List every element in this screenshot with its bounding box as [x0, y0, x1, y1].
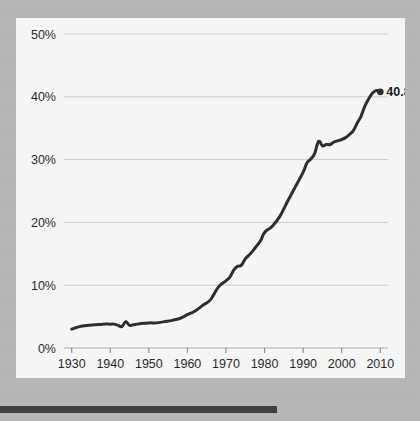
y-tick-label: 30%	[31, 153, 56, 167]
x-tick-label: 1950	[135, 357, 163, 371]
x-tick-label: 1940	[96, 357, 124, 371]
x-tick-label: 2000	[328, 357, 356, 371]
gridlines	[64, 34, 388, 285]
x-axis	[64, 348, 388, 353]
y-tick-label: 20%	[31, 216, 56, 230]
endpoint-value-label: 40.8%	[386, 85, 405, 99]
x-axis-tick-labels: 193019401950196019701980199020002010	[58, 357, 394, 371]
x-tick-label: 1980	[251, 357, 279, 371]
chart-card: 0%10%20%30%40%50% 1930194019501960197019…	[16, 18, 405, 378]
series-line-percent	[72, 90, 381, 329]
x-tick-label: 1970	[212, 357, 240, 371]
x-tick-label: 2010	[366, 357, 394, 371]
x-tick-label: 1930	[58, 357, 86, 371]
y-tick-label: 40%	[31, 90, 56, 104]
x-tick-label: 1960	[174, 357, 202, 371]
line-chart: 0%10%20%30%40%50% 1930194019501960197019…	[16, 18, 405, 378]
y-tick-label: 50%	[31, 28, 56, 42]
y-tick-label: 0%	[38, 342, 56, 356]
x-tick-label: 1990	[289, 357, 317, 371]
endpoint-marker-dot	[377, 88, 384, 95]
data-line-series	[72, 90, 381, 329]
y-axis-tick-labels: 0%10%20%30%40%50%	[31, 28, 56, 356]
bottom-rule	[0, 406, 277, 413]
y-tick-label: 10%	[31, 279, 56, 293]
